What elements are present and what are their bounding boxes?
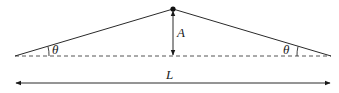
triangle-diagram: A θ θ L — [0, 0, 339, 93]
length-label: L — [165, 67, 173, 82]
apex-point — [170, 6, 175, 11]
right-angle-arc — [297, 47, 298, 57]
right-slope-line — [173, 9, 331, 56]
left-slope-line — [15, 9, 173, 56]
right-angle-label: θ — [283, 42, 290, 57]
left-angle-arc — [48, 47, 49, 57]
amplitude-label: A — [176, 25, 185, 40]
left-angle-label: θ — [52, 42, 59, 57]
